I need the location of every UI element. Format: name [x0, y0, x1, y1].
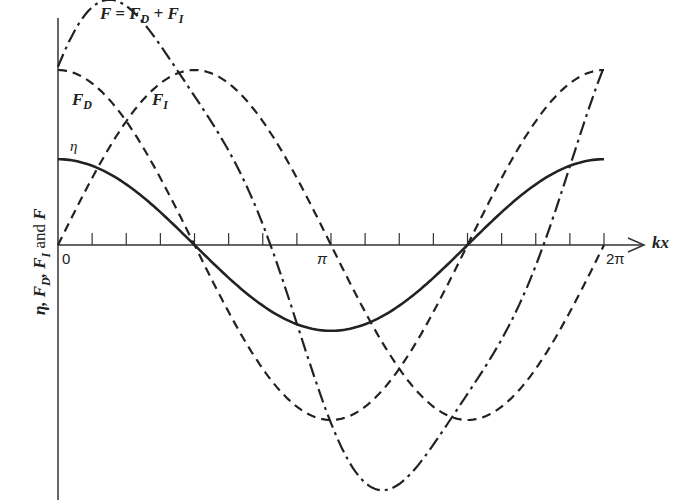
tick-0: 0 — [62, 250, 70, 267]
label-f-total: F = FD + FI — [100, 4, 183, 27]
label-f-d: FD — [72, 90, 92, 113]
label-eta: η — [70, 138, 77, 155]
x-axis-label: kx — [652, 233, 669, 253]
label-f-i: FI — [152, 90, 168, 113]
tick-pi: π — [317, 250, 327, 267]
tick-2pi: 2π — [606, 250, 625, 267]
y-axis-label: η, FD, FI and F — [30, 162, 53, 362]
chart-plot — [0, 0, 692, 504]
